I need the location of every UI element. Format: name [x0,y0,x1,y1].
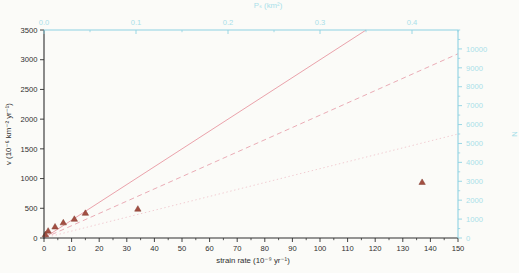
right-tick-label: 0 [466,234,470,243]
bottom-tick-label: 80 [261,244,269,253]
triangle-marker [52,224,58,230]
triangle-marker [45,228,51,233]
bottom-tick-label: 110 [342,244,354,253]
strain-rate-scatter-chart: 0102030405060708090100110120130140150str… [0,0,519,273]
left-tick-label: 1500 [21,145,38,154]
triangle-marker [60,219,66,225]
left-tick-label: 1000 [21,174,38,183]
screenshot-root: 0102030405060708090100110120130140150str… [0,0,519,273]
bottom-tick-label: 120 [369,244,382,253]
bottom-tick-label: 60 [205,244,213,253]
right-axis-title: N [510,131,519,137]
right-tick-label: 3000 [466,177,483,186]
top-tick-label: 0.4 [407,18,418,27]
left-tick-label: 500 [25,204,38,213]
left-tick-label: 2500 [21,85,38,94]
left-axis: 0500100015002000250030003500v (10⁻⁶ km⁻²… [4,26,44,243]
data-points [42,179,425,237]
triangle-marker [419,179,425,185]
right-tick-label: 1000 [466,215,483,224]
chart-canvas: 0102030405060708090100110120130140150str… [0,0,519,273]
dotted-trend-line [44,134,458,238]
bottom-tick-label: 10 [67,244,75,253]
dashed-trend-line [44,54,458,238]
solid-trend-line [44,30,366,238]
top-tick-label: 0.1 [131,18,142,27]
left-tick-label: 0 [33,234,37,243]
right-tick-label: 4000 [466,158,483,167]
right-tick-label: 2000 [466,196,483,205]
triangle-marker [135,206,141,212]
right-axis: 0100020003000400050006000700080009000100… [458,30,519,243]
top-axis: 0.00.10.20.30.4Pₛ (km²) [39,1,458,34]
top-tick-label: 0.0 [39,18,50,27]
trend-lines [44,30,458,238]
left-tick-label: 3500 [21,26,38,35]
left-tick-label: 3000 [21,55,38,64]
top-axis-title: Pₛ (km²) [254,1,283,10]
top-tick-label: 0.3 [315,18,326,27]
bottom-axis-title: strain rate (10⁻⁹ yr⁻¹) [216,256,290,265]
bottom-axis: 0102030405060708090100110120130140150str… [42,238,464,265]
right-tick-label: 9000 [466,64,483,73]
bottom-tick-label: 130 [396,244,409,253]
right-tick-label: 6000 [466,120,483,129]
bottom-tick-label: 140 [424,244,437,253]
right-tick-label: 5000 [466,139,483,148]
bottom-tick-label: 50 [178,244,186,253]
right-tick-label: 10000 [466,45,487,54]
right-tick-label: 8000 [466,82,483,91]
right-tick-label: 7000 [466,101,483,110]
bottom-tick-label: 90 [288,244,296,253]
bottom-tick-label: 70 [233,244,241,253]
bottom-tick-label: 30 [123,244,131,253]
bottom-tick-label: 0 [42,244,46,253]
bottom-tick-label: 100 [314,244,327,253]
left-tick-label: 2000 [21,115,38,124]
bottom-tick-label: 150 [452,244,465,253]
left-axis-title: v (10⁻⁶ km⁻² yr⁻¹) [4,103,13,165]
bottom-tick-label: 20 [95,244,103,253]
bottom-tick-label: 40 [150,244,158,253]
top-tick-label: 0.2 [223,18,234,27]
